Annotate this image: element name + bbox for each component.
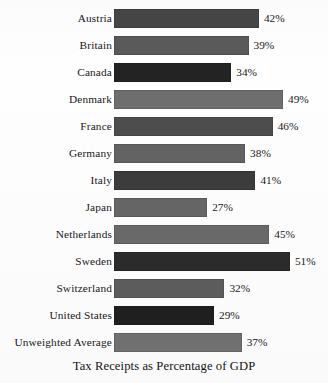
bar-value-label: 51% [295,256,316,267]
bar-value-label: 39% [254,40,275,51]
chart-title-caption: Tax Receipts as Percentage of GDP [0,360,328,374]
bar-row: Canada34% [0,63,328,82]
bar-fill [114,144,245,163]
bar-track: 38% [114,144,328,163]
bar-category-label: Switzerland [56,283,112,294]
bar-category-label: Germany [69,148,112,159]
bar-fill [114,225,269,244]
bar-value-label: 49% [288,94,309,105]
bar-row: Unweighted Average37% [0,333,328,352]
bar-value-label: 34% [236,67,257,78]
bar-value-label: 45% [274,229,295,240]
bar-track: 49% [114,90,328,109]
bar-value-label: 41% [260,175,281,186]
bar-category-label: United States [49,310,112,321]
bar-track: 46% [114,117,328,136]
bar-value-label: 38% [250,148,271,159]
bar-row: Britain39% [0,36,328,55]
bar-category-label: Unweighted Average [14,337,112,348]
bar-fill [114,90,283,109]
bar-row: France46% [0,117,328,136]
bar-row: Germany38% [0,144,328,163]
bar-track: 41% [114,171,328,190]
bar-row: Sweden51% [0,252,328,271]
bar-fill [114,198,207,217]
bar-category-label: Austria [78,13,112,24]
bar-category-label: Denmark [69,94,112,105]
chart-plot-area: Austria42%Britain39%Canada34%Denmark49%F… [0,0,328,358]
bar-track: 29% [114,306,328,325]
bar-row: Denmark49% [0,90,328,109]
bar-row: United States29% [0,306,328,325]
bar-category-label: Canada [77,67,112,78]
bar-fill [114,171,255,190]
bar-fill [114,9,259,28]
bar-category-label: Sweden [75,256,112,267]
bar-value-label: 32% [229,283,250,294]
bar-track: 51% [114,252,328,271]
bar-row: Italy41% [0,171,328,190]
bar-category-label: France [80,121,112,132]
bar-value-label: 37% [247,337,268,348]
bar-value-label: 27% [212,202,233,213]
bar-fill [114,36,249,55]
bar-row: Netherlands45% [0,225,328,244]
bar-fill [114,333,242,352]
bar-track: 45% [114,225,328,244]
bar-fill [114,252,290,271]
bar-value-label: 46% [278,121,299,132]
bar-row: Austria42% [0,9,328,28]
bar-track: 42% [114,9,328,28]
bar-category-label: Japan [86,202,112,213]
tax-receipts-bar-chart: Austria42%Britain39%Canada34%Denmark49%F… [0,0,328,383]
bar-track: 39% [114,36,328,55]
bar-row: Japan27% [0,198,328,217]
bar-track: 32% [114,279,328,298]
bar-fill [114,117,273,136]
bar-category-label: Britain [80,40,112,51]
bar-category-label: Netherlands [56,229,112,240]
bar-track: 27% [114,198,328,217]
bar-value-label: 42% [264,13,285,24]
bar-fill [114,63,231,82]
bar-track: 34% [114,63,328,82]
bar-value-label: 29% [219,310,240,321]
bar-track: 37% [114,333,328,352]
bar-category-label: Italy [91,175,112,186]
bar-row: Switzerland32% [0,279,328,298]
bar-fill [114,279,224,298]
bar-fill [114,306,214,325]
